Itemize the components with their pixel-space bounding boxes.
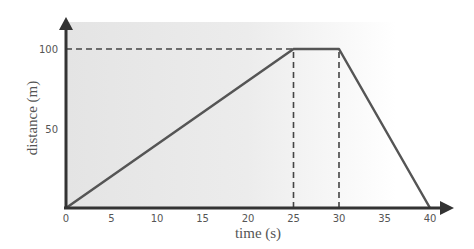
x-tick-label: 40 [424, 213, 437, 224]
plot-background [66, 22, 396, 208]
x-tick-labels: 0510152025303540 [63, 213, 437, 224]
y-tick-labels: 50100 [39, 44, 58, 135]
x-tick-label: 5 [108, 213, 114, 224]
x-tick-label: 20 [242, 213, 255, 224]
x-tick-label: 25 [287, 213, 300, 224]
x-axis-arrow-icon [440, 201, 454, 215]
x-tick-label: 35 [378, 213, 391, 224]
x-tick-label: 15 [196, 213, 209, 224]
x-axis-title: time (s) [235, 225, 281, 242]
x-tick-label: 10 [151, 213, 164, 224]
y-axis-title: distance (m) [24, 81, 41, 156]
x-tick-label: 0 [63, 213, 69, 224]
x-tick-label: 30 [333, 213, 346, 224]
y-tick-label: 100 [39, 44, 58, 55]
y-tick-label: 50 [45, 124, 58, 135]
distance-time-chart: 0510152025303540 50100 time (s) distance… [0, 0, 474, 249]
